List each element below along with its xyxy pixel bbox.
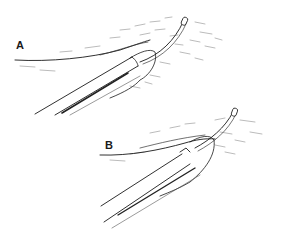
panel-b-thread-tip: [231, 108, 238, 117]
panel-a-tissue-fold: [100, 42, 148, 55]
panel-b: [100, 108, 262, 228]
panel-a-tissue-edge: [15, 40, 150, 61]
panel-label-a: A: [16, 40, 24, 51]
panel-a: [15, 17, 222, 115]
panel-a-thread-tip: [180, 17, 188, 26]
panel-b-tissue-hatching: [110, 118, 262, 161]
panel-label-b: B: [105, 140, 113, 151]
panel-a-forceps: [35, 57, 140, 115]
illustration-canvas: [0, 0, 282, 230]
panel-b-forceps: [101, 148, 200, 228]
